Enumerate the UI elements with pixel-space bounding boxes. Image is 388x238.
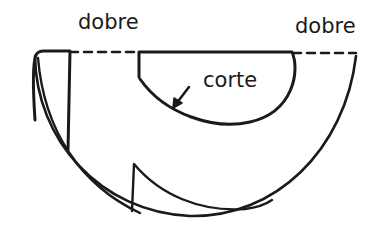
- fold-label-left: dobre: [78, 12, 139, 33]
- fold-label-right: dobre: [295, 16, 356, 37]
- inner-left-curve: [38, 58, 140, 213]
- outer-semicircle: [35, 56, 356, 216]
- cut-arrow-icon: [173, 87, 189, 108]
- diagram-canvas: dobre dobre corte: [0, 0, 388, 238]
- cut-label: corte: [203, 70, 257, 91]
